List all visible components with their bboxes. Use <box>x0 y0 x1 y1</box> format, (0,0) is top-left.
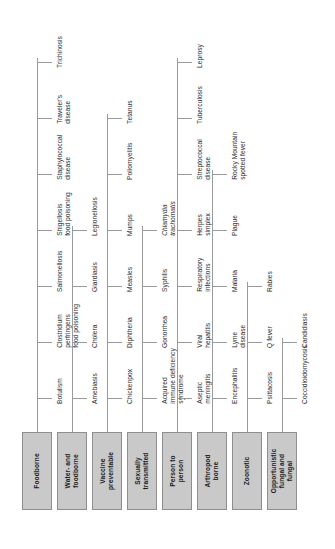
connector-line <box>247 286 262 287</box>
connector-line <box>37 230 52 231</box>
connector-line <box>37 62 52 63</box>
connector-line <box>282 342 297 343</box>
connector-line <box>107 230 122 231</box>
connector-line <box>72 398 87 399</box>
connector-line <box>142 342 157 343</box>
category-box-arthropod-borne[interactable]: Arthropod borne <box>197 432 227 510</box>
connector-line <box>142 286 157 287</box>
connector-line <box>212 342 227 343</box>
connector-line <box>107 342 122 343</box>
trunk-line-sexually-transmitted <box>142 226 143 432</box>
leaf-node[interactable]: Candidiasis <box>301 292 334 348</box>
leaf-label: Coccidioidomycosis <box>301 345 309 404</box>
connector-line <box>107 118 122 119</box>
category-box-label: Foodborne <box>33 453 41 488</box>
connector-line <box>142 398 157 399</box>
connector-line <box>212 174 227 175</box>
trunk-line-water-and-foodborne <box>72 226 73 432</box>
connector-line <box>177 286 192 287</box>
connector-line <box>107 286 122 287</box>
connector-line <box>72 230 87 231</box>
category-box-zoonotic[interactable]: Zoonotic <box>232 432 262 510</box>
trunk-line-opportunistic-fungal <box>282 338 283 432</box>
category-branch-opportunistic-fungal: Opportunistic fungal and fungalCoccidioi… <box>267 0 334 549</box>
connector-line <box>177 118 192 119</box>
category-box-person-to-person[interactable]: Person to person <box>162 432 192 510</box>
connector-line <box>212 398 227 399</box>
connector-line <box>72 342 87 343</box>
trunk-line-person-to-person <box>177 58 178 432</box>
trunk-line-arthropod-borne <box>212 170 213 432</box>
leaf-label: Candidiasis <box>301 313 309 348</box>
connector-line <box>107 398 122 399</box>
connector-line <box>177 342 192 343</box>
connector-line <box>212 286 227 287</box>
connector-line <box>107 174 122 175</box>
trunk-line-vaccine-preventable <box>107 114 108 432</box>
connector-line <box>142 230 157 231</box>
category-box-label: Zoonotic <box>243 457 251 486</box>
category-box-foodborne[interactable]: Foodborne <box>22 432 52 510</box>
connector-line <box>177 398 192 399</box>
disease-classification-diagram: FoodborneBotulismClostridium perfringens… <box>0 0 335 549</box>
connector-line <box>247 398 262 399</box>
connector-line <box>37 398 52 399</box>
connector-line <box>37 342 52 343</box>
category-box-opportunistic-fungal[interactable]: Opportunistic fungal and fungal <box>267 432 297 510</box>
connector-line <box>212 230 227 231</box>
connector-line <box>247 342 262 343</box>
connector-line <box>37 118 52 119</box>
trunk-line-foodborne <box>37 58 38 432</box>
connector-line <box>177 62 192 63</box>
category-box-label: Opportunistic fungal and fungal <box>270 449 294 494</box>
trunk-line-zoonotic <box>247 282 248 432</box>
connector-line <box>37 174 52 175</box>
category-box-sexually-transmitted[interactable]: Sexually transmitted <box>127 432 157 510</box>
category-box-label: Water- and foodborne <box>64 454 80 489</box>
category-box-label: Sexually transmitted <box>134 452 150 489</box>
leaf-node[interactable]: Coccidioidomycosis <box>301 348 334 404</box>
category-box-vaccine-preventable[interactable]: Vaccine preventable <box>92 432 122 510</box>
connector-line <box>37 286 52 287</box>
category-box-label: Arthropod borne <box>204 454 220 487</box>
category-box-water-and-foodborne[interactable]: Water- and foodborne <box>57 432 87 510</box>
category-box-label: Person to person <box>169 455 185 486</box>
connector-line <box>72 286 87 287</box>
connector-line <box>177 174 192 175</box>
connector-line <box>282 398 297 399</box>
connector-line <box>177 230 192 231</box>
category-box-label: Vaccine preventable <box>99 452 115 490</box>
